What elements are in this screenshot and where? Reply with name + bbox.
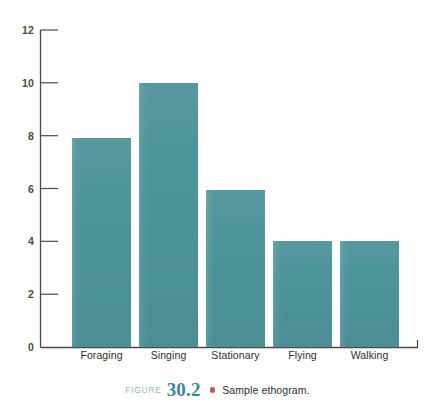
- figure-container: 12 10 8 6 4 2 0 Foraging Singing Station…: [0, 0, 435, 414]
- caption-figure-word: FIGURE: [125, 385, 161, 395]
- bullet-dot-icon: [210, 387, 216, 393]
- caption-text: Sample ethogram.: [222, 384, 309, 396]
- bar-walking: [340, 241, 399, 347]
- x-tick-label-foraging: Foraging: [72, 349, 131, 361]
- x-tick-label-singing: Singing: [139, 349, 198, 361]
- x-axis-category-labels: Foraging Singing Stationary Flying Walki…: [0, 349, 435, 369]
- bar-flying: [273, 241, 332, 347]
- x-tick-label-flying: Flying: [273, 349, 332, 361]
- caption-figure-number: 30.2: [167, 379, 201, 401]
- bar-series: [0, 0, 435, 360]
- x-tick-label-stationary: Stationary: [206, 349, 265, 361]
- bar-singing: [139, 83, 198, 347]
- bar-stationary: [206, 190, 265, 347]
- bar-foraging: [72, 138, 131, 347]
- bar-chart-plot: 12 10 8 6 4 2 0 Foraging Singing Station…: [0, 0, 435, 360]
- x-tick-label-walking: Walking: [340, 349, 399, 361]
- figure-caption: FIGURE 30.2 Sample ethogram.: [0, 376, 435, 402]
